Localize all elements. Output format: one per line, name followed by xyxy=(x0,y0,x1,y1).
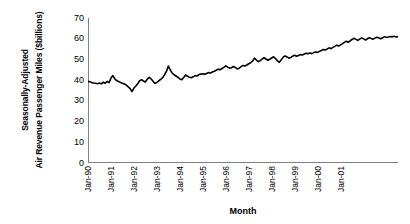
plot-area xyxy=(88,18,398,163)
y-axis-tick-label: 50 xyxy=(62,55,84,64)
x-axis-tick-label: Jan-01 xyxy=(335,166,346,206)
x-axis-tick-label: Jan-00 xyxy=(312,166,323,206)
y-axis-tick-label: 20 xyxy=(62,117,84,126)
x-axis-tick-label: Jan-95 xyxy=(197,166,208,206)
x-axis-title: Month xyxy=(88,206,398,216)
y-axis-title-line-1: Seasonally-Adjusted xyxy=(18,0,32,180)
x-axis-tick-label: Jan-91 xyxy=(105,166,116,206)
y-axis-tick-label: 0 xyxy=(62,159,84,168)
x-axis-tick-label: Jan-96 xyxy=(220,166,231,206)
y-axis-tick-label: 10 xyxy=(62,138,84,147)
x-axis-tick-label: Jan-92 xyxy=(128,166,139,206)
y-axis-title-line-2: Air Revenue Passenger Miles ($billions) xyxy=(32,0,46,180)
x-axis-tick-label: Jan-97 xyxy=(243,166,254,206)
y-axis-tick-label: 30 xyxy=(62,96,84,105)
x-axis-tick-label: Jan-93 xyxy=(151,166,162,206)
y-axis-tick-labels: 706050403020100 xyxy=(60,0,84,180)
x-axis-tick-label: Jan-99 xyxy=(289,166,300,206)
x-axis-tick-label: Jan-94 xyxy=(174,166,185,206)
chart-figure: Seasonally-Adjusted Air Revenue Passenge… xyxy=(0,0,410,224)
y-axis-tick-label: 70 xyxy=(62,14,84,23)
line-chart-svg xyxy=(88,18,398,163)
x-axis-tick-label: Jan-90 xyxy=(83,166,94,206)
x-axis-tick-labels: Jan-90Jan-91Jan-92Jan-93Jan-94Jan-95Jan-… xyxy=(88,166,398,202)
x-axis-tick-label: Jan-98 xyxy=(266,166,277,206)
y-axis-tick-label: 40 xyxy=(62,76,84,85)
y-axis-title: Seasonally-Adjusted Air Revenue Passenge… xyxy=(0,0,46,180)
data-series-line xyxy=(88,36,398,91)
y-axis-tick-label: 60 xyxy=(62,34,84,43)
